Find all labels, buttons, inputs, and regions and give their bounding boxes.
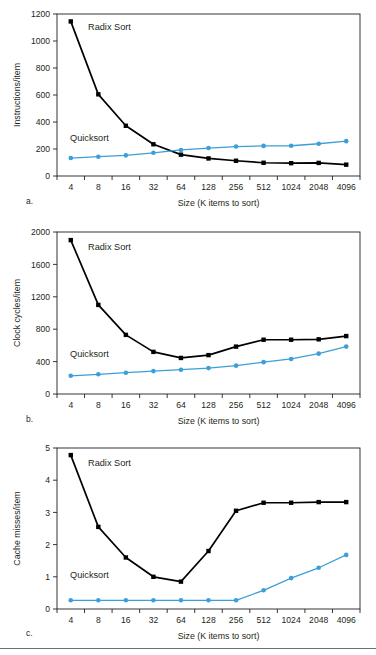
- data-point-marker: [179, 579, 183, 583]
- y-tick-label: 400: [36, 357, 51, 367]
- series-line-radix-sort: [71, 21, 346, 164]
- data-point-marker: [261, 161, 265, 165]
- data-point-marker: [344, 139, 349, 144]
- x-tick-label: 128: [201, 400, 216, 410]
- x-tick-label: 512: [256, 182, 271, 192]
- x-tick-label: 2048: [309, 182, 328, 192]
- x-tick-label: 64: [176, 400, 186, 410]
- data-point-marker: [316, 161, 320, 165]
- data-point-marker: [234, 509, 238, 513]
- bottom-divider: [0, 648, 376, 649]
- data-point-marker: [179, 598, 184, 603]
- x-tick-label: 1024: [282, 400, 301, 410]
- data-point-marker: [179, 152, 183, 156]
- y-tick-label: 600: [36, 90, 51, 100]
- data-point-marker: [179, 356, 183, 360]
- x-tick-label: 1024: [282, 615, 301, 625]
- series-annotation-quicksort: Quicksort: [70, 133, 109, 143]
- data-point-marker: [344, 334, 348, 338]
- data-point-marker: [151, 575, 155, 579]
- data-point-marker: [261, 588, 266, 593]
- x-tick-label: 4096: [337, 615, 356, 625]
- x-tick-label: 2048: [309, 400, 328, 410]
- chart-panel-a: 0200400600800100012004816326412825651210…: [0, 0, 376, 218]
- data-point-marker: [261, 360, 266, 365]
- data-point-marker: [96, 598, 101, 603]
- series-annotation-radix-sort: Radix Sort: [88, 242, 131, 252]
- x-tick-label: 4096: [337, 182, 356, 192]
- data-point-marker: [179, 367, 184, 372]
- y-axis-title: Instructions/item: [12, 63, 22, 127]
- y-tick-label: 0: [45, 604, 50, 614]
- y-tick-label: 1: [45, 572, 50, 582]
- x-tick-label: 32: [149, 400, 159, 410]
- x-axis-title: Size (K items to sort): [178, 416, 260, 426]
- data-point-marker: [151, 598, 156, 603]
- x-tick-label: 4: [68, 615, 73, 625]
- data-point-marker: [124, 124, 128, 128]
- y-tick-label: 400: [36, 117, 51, 127]
- data-point-marker: [206, 146, 211, 151]
- data-point-marker: [234, 363, 239, 368]
- x-tick-label: 1024: [282, 182, 301, 192]
- x-tick-label: 4: [68, 182, 73, 192]
- y-tick-label: 0: [45, 389, 50, 399]
- data-point-marker: [344, 553, 349, 558]
- data-point-marker: [96, 92, 100, 96]
- data-point-marker: [289, 143, 294, 148]
- x-tick-label: 16: [121, 182, 131, 192]
- x-tick-label: 64: [176, 615, 186, 625]
- x-tick-label: 2048: [309, 615, 328, 625]
- chart-panel-c: 01234548163264128256512102420484096Size …: [0, 436, 376, 648]
- data-point-marker: [179, 148, 184, 153]
- data-point-marker: [344, 500, 348, 504]
- series-line-quicksort: [71, 555, 346, 600]
- data-point-marker: [124, 333, 128, 337]
- series-annotation-radix-sort: Radix Sort: [88, 22, 131, 32]
- y-tick-label: 2: [45, 540, 50, 550]
- series-line-radix-sort: [71, 455, 346, 582]
- y-tick-label: 1200: [31, 292, 50, 302]
- data-point-marker: [68, 156, 73, 161]
- data-point-marker: [316, 565, 321, 570]
- data-point-marker: [289, 338, 293, 342]
- y-tick-label: 3: [45, 508, 50, 518]
- x-tick-label: 256: [229, 182, 244, 192]
- data-point-marker: [68, 373, 73, 378]
- x-axis-title: Size (K items to sort): [178, 631, 260, 641]
- x-tick-label: 16: [121, 615, 131, 625]
- x-tick-label: 4: [68, 400, 73, 410]
- figure-sorting-performance: 0200400600800100012004816326412825651210…: [0, 0, 376, 655]
- y-tick-label: 200: [36, 144, 51, 154]
- data-point-marker: [124, 555, 128, 559]
- data-point-marker: [289, 357, 294, 362]
- series-annotation-quicksort: Quicksort: [70, 570, 109, 580]
- y-tick-label: 800: [36, 324, 51, 334]
- x-tick-label: 8: [96, 182, 101, 192]
- data-point-marker: [234, 159, 238, 163]
- chart-panel-b: 0400800120016002000481632641282565121024…: [0, 218, 376, 436]
- data-point-marker: [316, 351, 321, 356]
- x-tick-label: 8: [96, 400, 101, 410]
- data-point-marker: [234, 144, 239, 149]
- x-tick-label: 8: [96, 615, 101, 625]
- x-tick-label: 64: [176, 182, 186, 192]
- data-point-marker: [151, 369, 156, 374]
- data-point-marker: [316, 337, 320, 341]
- y-tick-label: 0: [45, 171, 50, 181]
- y-tick-label: 4: [45, 475, 50, 485]
- data-point-marker: [316, 141, 321, 146]
- x-tick-label: 128: [201, 615, 216, 625]
- data-point-marker: [124, 153, 129, 158]
- data-point-marker: [234, 598, 239, 603]
- data-point-marker: [124, 370, 129, 375]
- series-annotation-radix-sort: Radix Sort: [88, 458, 131, 468]
- chart-b-plot: 0400800120016002000481632641282565121024…: [0, 218, 376, 436]
- data-point-marker: [69, 19, 73, 23]
- data-point-marker: [206, 598, 211, 603]
- y-tick-label: 5: [45, 443, 50, 453]
- data-point-marker: [151, 150, 156, 155]
- data-point-marker: [316, 500, 320, 504]
- data-point-marker: [124, 598, 129, 603]
- data-point-marker: [96, 303, 100, 307]
